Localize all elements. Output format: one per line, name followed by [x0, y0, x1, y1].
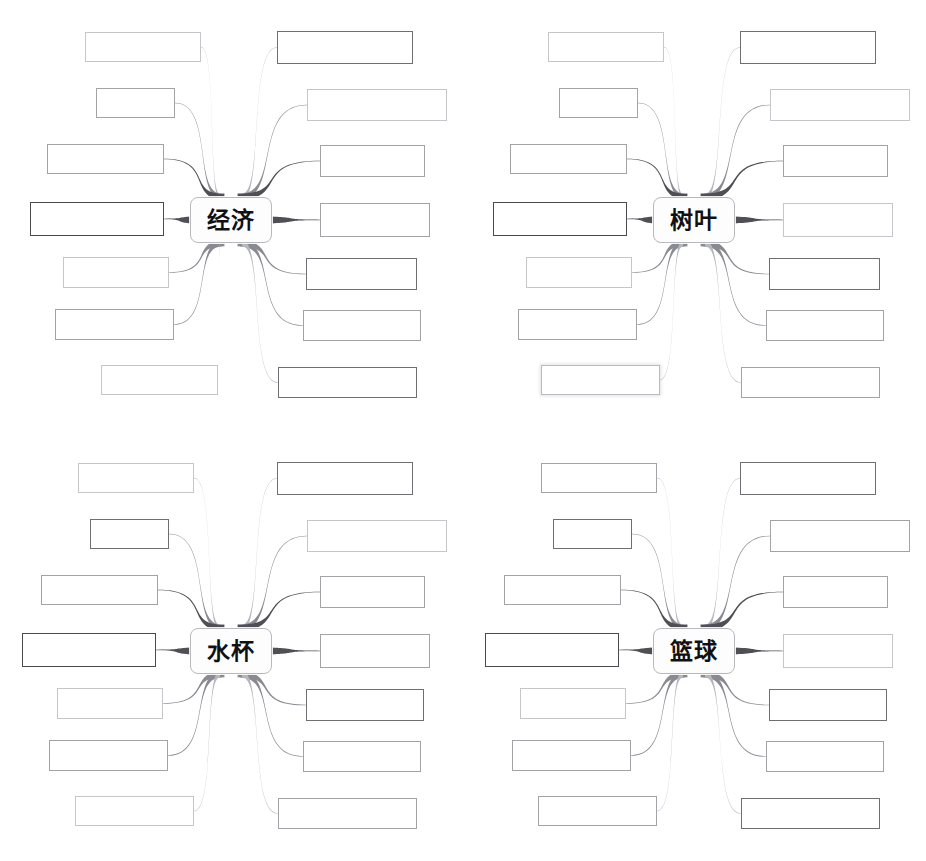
answer-box-right-6[interactable]: [303, 741, 421, 772]
answer-box-left-3[interactable]: [510, 144, 627, 174]
mindmap-top-left: 经济: [0, 0, 463, 430]
answer-box-right-1[interactable]: [740, 31, 876, 64]
answer-box-right-4[interactable]: [320, 203, 430, 237]
answer-box-right-2[interactable]: [307, 89, 447, 121]
answer-box-left-3[interactable]: [41, 575, 158, 605]
worksheet-page: 经济 树叶 水杯 篮球: [0, 0, 926, 861]
answer-box-right-5[interactable]: [769, 689, 887, 721]
center-topic-node[interactable]: 水杯: [190, 628, 272, 674]
answer-box-right-5[interactable]: [306, 258, 417, 290]
center-topic-node[interactable]: 树叶: [653, 197, 735, 243]
answer-box-right-5[interactable]: [769, 258, 880, 290]
center-topic-label: 篮球: [670, 640, 718, 663]
center-topic-node[interactable]: 篮球: [653, 628, 735, 674]
answer-box-right-4[interactable]: [320, 634, 430, 668]
answer-box-right-1[interactable]: [277, 462, 413, 495]
answer-box-left-6[interactable]: [518, 309, 637, 340]
answer-box-left-2[interactable]: [553, 519, 632, 549]
answer-box-left-5[interactable]: [526, 257, 632, 288]
answer-box-right-7[interactable]: [278, 798, 417, 829]
answer-box-right-7[interactable]: [741, 798, 880, 829]
answer-box-right-6[interactable]: [303, 310, 421, 341]
answer-box-left-5[interactable]: [520, 688, 626, 719]
answer-box-right-1[interactable]: [277, 31, 413, 64]
answer-box-left-4[interactable]: [485, 633, 619, 667]
answer-box-right-4[interactable]: [783, 203, 893, 237]
mindmap-top-right: 树叶: [463, 0, 926, 430]
answer-box-left-4[interactable]: [493, 202, 627, 236]
answer-box-left-1[interactable]: [541, 463, 657, 493]
center-topic-label: 经济: [207, 209, 255, 232]
answer-box-left-5[interactable]: [57, 688, 163, 719]
answer-box-right-5[interactable]: [306, 689, 424, 721]
answer-box-left-1[interactable]: [548, 32, 664, 62]
answer-box-right-3[interactable]: [783, 145, 888, 177]
answer-box-left-2[interactable]: [96, 88, 175, 118]
answer-box-right-6[interactable]: [766, 310, 884, 341]
answer-box-left-4[interactable]: [30, 202, 164, 236]
mindmap-bottom-right: 篮球: [463, 431, 926, 861]
center-topic-label: 水杯: [207, 640, 255, 663]
answer-box-right-3[interactable]: [320, 576, 425, 608]
center-topic-node[interactable]: 经济: [190, 197, 272, 243]
answer-box-left-5[interactable]: [63, 257, 169, 288]
answer-box-left-2[interactable]: [90, 519, 169, 549]
answer-box-left-1[interactable]: [85, 32, 201, 62]
answer-box-left-7[interactable]: [101, 365, 218, 395]
answer-box-right-3[interactable]: [320, 145, 425, 177]
answer-box-left-2[interactable]: [559, 88, 638, 118]
answer-box-left-3[interactable]: [504, 575, 621, 605]
answer-box-right-7[interactable]: [741, 367, 880, 398]
answer-box-left-7[interactable]: [75, 796, 194, 826]
answer-box-left-4[interactable]: [22, 633, 156, 667]
answer-box-left-6[interactable]: [55, 309, 174, 340]
answer-box-right-3[interactable]: [783, 576, 888, 608]
answer-box-left-7[interactable]: [538, 796, 657, 826]
answer-box-left-1[interactable]: [78, 463, 194, 493]
answer-box-left-6[interactable]: [512, 740, 631, 771]
center-topic-label: 树叶: [670, 209, 718, 232]
answer-box-left-7[interactable]: [541, 365, 660, 395]
answer-box-right-4[interactable]: [783, 634, 893, 668]
answer-box-right-6[interactable]: [766, 741, 884, 772]
answer-box-right-2[interactable]: [307, 520, 447, 552]
answer-box-left-6[interactable]: [49, 740, 168, 771]
answer-box-right-2[interactable]: [770, 520, 910, 552]
answer-box-left-3[interactable]: [47, 144, 164, 174]
answer-box-right-1[interactable]: [740, 462, 876, 495]
answer-box-right-7[interactable]: [278, 367, 417, 398]
mindmap-bottom-left: 水杯: [0, 431, 463, 861]
answer-box-right-2[interactable]: [770, 89, 910, 121]
